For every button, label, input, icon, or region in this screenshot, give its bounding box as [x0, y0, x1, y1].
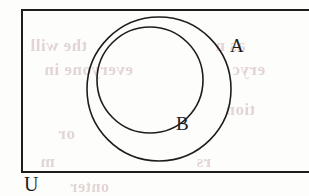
- set-b-label: B: [176, 114, 189, 133]
- venn-diagram-figure: the will everyone in as n eryc or tion m…: [0, 0, 309, 196]
- universal-set-label: U: [24, 174, 38, 194]
- venn-diagram-canvas: [0, 0, 309, 196]
- universal-set-rectangle: [22, 10, 309, 172]
- set-a-label: A: [230, 36, 244, 55]
- set-a-circle: [87, 17, 231, 161]
